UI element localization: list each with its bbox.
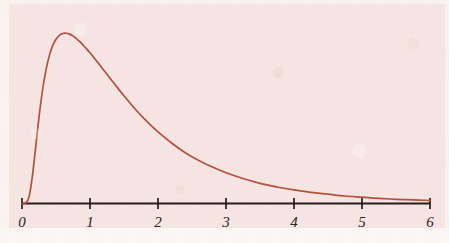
- figure-container: 0123456: [0, 0, 449, 243]
- x-axis-tick-label-0: 0: [18, 214, 26, 231]
- x-axis: [22, 198, 430, 209]
- density-plot: [0, 0, 449, 243]
- x-axis-tick-label-1: 1: [86, 214, 94, 231]
- x-axis-tick-label-4: 4: [290, 214, 298, 231]
- density-curve: [22, 33, 430, 204]
- x-axis-tick-label-2: 2: [154, 214, 162, 231]
- x-axis-tick-label-6: 6: [426, 214, 434, 231]
- x-axis-tick-label-3: 3: [222, 214, 230, 231]
- x-axis-tick-label-5: 5: [358, 214, 366, 231]
